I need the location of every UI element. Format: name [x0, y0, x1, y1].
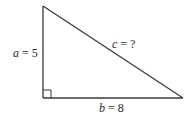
label-a-equals: =	[19, 46, 32, 60]
label-side-c: c = ?	[112, 37, 135, 51]
label-b-equals: =	[105, 101, 118, 115]
label-side-b: b = 8	[99, 101, 124, 115]
right-angle-marker	[43, 90, 51, 98]
label-a-value: 5	[32, 46, 38, 60]
label-c-equals: =	[117, 37, 130, 51]
label-b-value: 8	[118, 101, 124, 115]
label-side-a: a = 5	[13, 46, 38, 60]
label-c-value: ?	[130, 37, 135, 51]
right-triangle-diagram: a = 5 c = ? b = 8	[0, 0, 189, 115]
side-c-hypotenuse	[43, 6, 183, 98]
